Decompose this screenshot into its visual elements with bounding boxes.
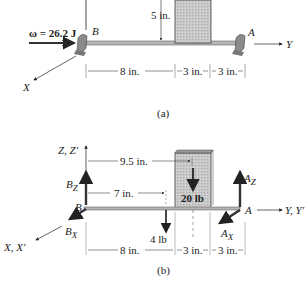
- load-20lb-label: 20 lb: [181, 193, 204, 204]
- dim-5in-label: 5 in.: [151, 10, 171, 21]
- x-axis-a: [34, 56, 76, 80]
- dim-3in-label-a-2: 3 in.: [218, 66, 238, 77]
- point-b-label-b: B: [75, 202, 82, 213]
- y-axis-label-b: Y, Y′: [285, 205, 304, 216]
- point-a-label-a: A: [248, 27, 255, 38]
- x-axis-b: [36, 226, 62, 240]
- load-4lb-label: 4 lb: [150, 234, 167, 245]
- box-a: [175, 0, 211, 43]
- shaft-b: [84, 207, 240, 210]
- dim-8in-label-b: 8 in.: [120, 245, 140, 256]
- y-axis-label-a: Y: [286, 39, 292, 50]
- force-ax-label: AX: [221, 228, 233, 239]
- diagram-canvas: [0, 0, 306, 298]
- point-a-label-b: A: [245, 205, 252, 216]
- dim-3in-label-a-1: 3 in.: [183, 66, 203, 77]
- dim-3in-label-b-1: 3 in.: [183, 245, 203, 256]
- x-axis-label-b: X, X′: [4, 242, 25, 253]
- z-axis-label-b: Z, Z′: [58, 145, 78, 156]
- x-axis-label-a: X: [23, 82, 30, 93]
- force-bx-label: BX: [65, 226, 77, 237]
- caption-b: (b): [157, 265, 170, 276]
- omega-label: ω = 26.2 J: [29, 28, 76, 39]
- dim-7in-label: 7 in.: [114, 188, 134, 199]
- dim-3in-label-b-2: 3 in.: [218, 245, 238, 256]
- caption-a: (a): [157, 108, 169, 119]
- force-az-label: AZ: [244, 173, 256, 184]
- dim-9-5in-label: 9.5 in.: [120, 156, 148, 167]
- shaft-a: [84, 41, 236, 45]
- force-ax-arrow: [220, 210, 240, 223]
- force-bz-label: BZ: [66, 179, 78, 190]
- dim-8in-label-a: 8 in.: [120, 66, 140, 77]
- point-b-label-a: B: [92, 26, 99, 37]
